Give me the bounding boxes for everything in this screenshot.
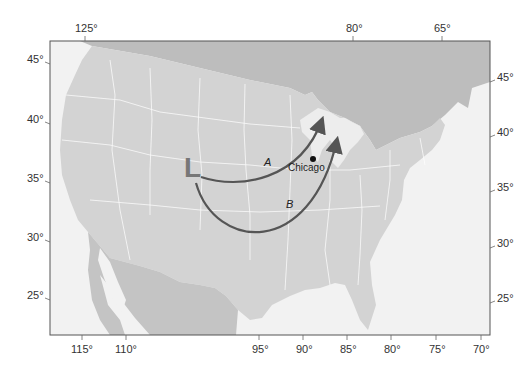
lon-label-bottom-95: 95° (252, 343, 269, 355)
lon-label-top-65: 65° (434, 22, 451, 34)
lat-label-right-45: 45° (497, 71, 514, 83)
lon-label-bottom-70: 70° (473, 343, 490, 355)
chicago-label: Chicago (288, 162, 325, 173)
lat-label-right-35: 35° (497, 181, 514, 193)
lon-label-bottom-90: 90° (296, 343, 313, 355)
lon-label-top-80: 80° (346, 22, 363, 34)
lat-label-right-30: 30° (497, 237, 514, 249)
lat-label-right-25: 25° (497, 292, 514, 304)
storm-track-map (0, 0, 530, 377)
track-b-label: B (286, 198, 293, 210)
lon-label-top-125: 125° (75, 22, 98, 34)
lon-label-bottom-85: 85° (340, 343, 357, 355)
lat-label-left-35: 35° (27, 172, 44, 184)
lat-label-left-45: 45° (27, 53, 44, 65)
lat-label-right-40: 40° (497, 126, 514, 138)
lon-label-bottom-110: 110° (115, 343, 137, 355)
low-pressure-symbol: L (184, 154, 201, 182)
lon-label-bottom-75: 75° (429, 343, 446, 355)
lon-label-bottom-115: 115° (71, 343, 93, 355)
track-a-label: A (264, 156, 271, 168)
lat-label-left-25: 25° (27, 289, 44, 301)
lat-label-left-30: 30° (27, 231, 44, 243)
lon-label-bottom-80: 80° (384, 343, 401, 355)
lat-label-left-40: 40° (27, 113, 44, 125)
